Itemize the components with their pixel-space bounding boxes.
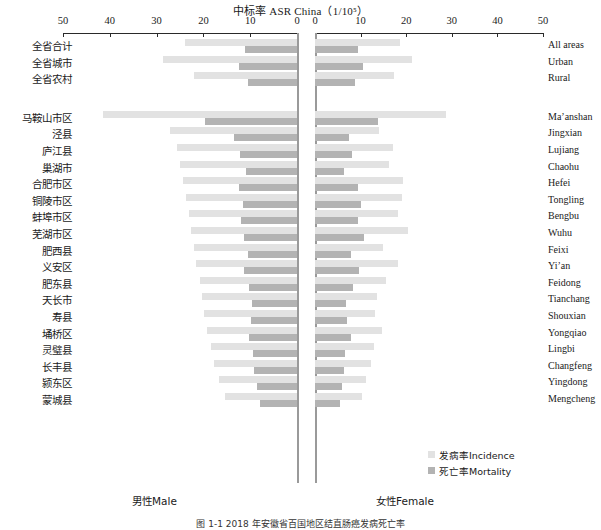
row-label-en: Changfeng bbox=[548, 360, 592, 371]
chart-row: 全省城市Urban bbox=[0, 56, 601, 73]
bar-male-mortality bbox=[254, 367, 297, 374]
row-label-cn: 埇桥区 bbox=[42, 326, 72, 341]
row-label-cn: 庐江县 bbox=[42, 143, 72, 158]
bar-female-incidence bbox=[315, 260, 398, 267]
bar-male-mortality bbox=[240, 151, 297, 158]
row-label-cn: 马鞍山市区 bbox=[22, 110, 72, 125]
bar-male-mortality bbox=[239, 184, 297, 191]
row-label-en: Wuhu bbox=[548, 227, 572, 238]
bar-female-incidence bbox=[315, 177, 403, 184]
bar-female-mortality bbox=[315, 334, 351, 341]
bar-female-mortality bbox=[315, 217, 358, 224]
bar-female-incidence bbox=[315, 72, 394, 79]
bar-female-incidence bbox=[315, 244, 383, 251]
bar-female-incidence bbox=[315, 39, 400, 46]
bar-male-incidence bbox=[207, 327, 297, 334]
figure-caption: 图 1-1 2018 年安徽省百国地区结直肠癌发病死亡率 bbox=[0, 517, 601, 530]
row-label-cn: 义安区 bbox=[42, 259, 72, 274]
row-label-en: Lingbi bbox=[548, 343, 575, 354]
chart-row: 全省合计All areas bbox=[0, 39, 601, 56]
bar-female-mortality bbox=[315, 118, 378, 125]
bar-male-mortality bbox=[239, 63, 298, 70]
chart-container: 中标率 ASR China（1/10⁵） 5040302010001020304… bbox=[0, 0, 601, 530]
chart-row: 马鞍山市区Ma’anshan bbox=[0, 111, 601, 128]
row-label-cn: 泾县 bbox=[52, 126, 72, 141]
bar-female-mortality bbox=[315, 251, 351, 258]
row-label-en: Urban bbox=[548, 56, 573, 67]
bar-male-mortality bbox=[245, 46, 297, 53]
bar-female-mortality bbox=[315, 184, 358, 191]
panel-label-male: 男性Male bbox=[132, 493, 177, 508]
bar-male-incidence bbox=[211, 343, 297, 350]
bar-female-mortality bbox=[315, 367, 344, 374]
bar-female-mortality bbox=[315, 234, 364, 241]
bar-male-mortality bbox=[244, 234, 297, 241]
bar-female-mortality bbox=[315, 300, 346, 307]
legend-item[interactable]: 死亡率Mortality bbox=[428, 464, 515, 477]
bar-male-mortality bbox=[234, 134, 297, 141]
bar-male-incidence bbox=[163, 56, 297, 63]
row-label-en: Feidong bbox=[548, 277, 581, 288]
row-label-en: Feixi bbox=[548, 244, 569, 255]
row-label-cn: 灵璧县 bbox=[42, 342, 72, 357]
row-label-cn: 蒙城县 bbox=[42, 392, 72, 407]
bar-male-incidence bbox=[186, 194, 297, 201]
bar-female-incidence bbox=[315, 127, 379, 134]
chart-row: 合肥市区Hefei bbox=[0, 177, 601, 194]
row-label-cn: 蚌埠市区 bbox=[32, 209, 72, 224]
chart-row: 寿县Shouxian bbox=[0, 310, 601, 327]
chart-legend: 发病率Incidence死亡率Mortality bbox=[428, 448, 515, 480]
bar-male-mortality bbox=[249, 334, 297, 341]
bar-male-incidence bbox=[214, 360, 297, 367]
bar-female-mortality bbox=[315, 168, 344, 175]
bar-female-mortality bbox=[315, 350, 345, 357]
row-label-en: Yongqiao bbox=[548, 327, 586, 338]
bar-female-incidence bbox=[315, 210, 398, 217]
bar-male-mortality bbox=[246, 168, 297, 175]
row-label-en: Tianchang bbox=[548, 293, 590, 304]
chart-row: 义安区Yi’an bbox=[0, 260, 601, 277]
bar-male-incidence bbox=[180, 161, 297, 168]
bar-female-incidence bbox=[315, 360, 371, 367]
bar-male-incidence bbox=[200, 277, 297, 284]
bar-male-mortality bbox=[248, 251, 297, 258]
row-label-en: Rural bbox=[548, 72, 570, 83]
bar-male-incidence bbox=[194, 72, 297, 79]
legend-swatch-icon bbox=[428, 467, 435, 474]
row-label-cn: 铜陵市区 bbox=[32, 193, 72, 208]
row-label-cn: 天长市 bbox=[42, 292, 72, 307]
bar-male-incidence bbox=[183, 177, 297, 184]
bar-female-incidence bbox=[315, 327, 382, 334]
bar-female-mortality bbox=[315, 284, 353, 291]
chart-row: 庐江县Lujiang bbox=[0, 144, 601, 161]
legend-label: 发病率Incidence bbox=[439, 448, 515, 462]
panel-label-female: 女性Female bbox=[376, 493, 434, 508]
bar-male-incidence bbox=[219, 376, 297, 383]
bar-male-mortality bbox=[253, 350, 297, 357]
bar-female-mortality bbox=[315, 63, 363, 70]
chart-row: 泾县Jingxian bbox=[0, 127, 601, 144]
row-label-en: Mengcheng bbox=[548, 393, 595, 404]
bar-female-mortality bbox=[315, 79, 355, 86]
bar-female-incidence bbox=[315, 144, 393, 151]
legend-item[interactable]: 发病率Incidence bbox=[428, 448, 515, 461]
bar-female-mortality bbox=[315, 383, 342, 390]
bar-male-mortality bbox=[243, 201, 297, 208]
bar-male-incidence bbox=[191, 227, 297, 234]
chart-row: 蚌埠市区Bengbu bbox=[0, 210, 601, 227]
bar-female-incidence bbox=[315, 194, 402, 201]
bar-female-incidence bbox=[315, 277, 386, 284]
bar-male-incidence bbox=[202, 293, 297, 300]
row-label-cn: 全省农村 bbox=[32, 71, 72, 86]
row-label-cn: 巢湖市 bbox=[42, 160, 72, 175]
bar-female-mortality bbox=[315, 151, 352, 158]
bar-male-incidence bbox=[194, 244, 297, 251]
chart-row: 埇桥区Yongqiao bbox=[0, 327, 601, 344]
row-label-en: Jingxian bbox=[548, 127, 582, 138]
row-label-cn: 全省城市 bbox=[32, 55, 72, 70]
row-label-cn: 肥东县 bbox=[42, 276, 72, 291]
bar-male-mortality bbox=[244, 267, 297, 274]
legend-swatch-icon bbox=[428, 451, 435, 458]
bar-female-incidence bbox=[315, 393, 362, 400]
row-label-en: Yingdong bbox=[548, 376, 587, 387]
